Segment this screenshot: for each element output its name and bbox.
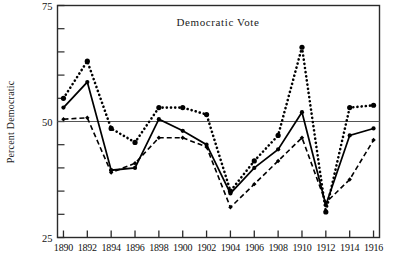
x-tick-label: 1898: [149, 242, 168, 253]
chart-container: 255075 189018921894189618981900190219041…: [0, 0, 393, 256]
data-point-marker: [228, 191, 232, 195]
x-tick-label: 1906: [245, 242, 264, 253]
data-point-marker: [299, 45, 304, 50]
data-point-marker: [157, 136, 161, 140]
data-point-marker: [347, 105, 352, 110]
data-point-marker: [132, 140, 137, 145]
x-tick-label: 1914: [340, 242, 359, 253]
data-point-marker: [180, 105, 185, 110]
y-tick-label: 75: [42, 1, 53, 12]
data-point-marker: [109, 126, 114, 131]
data-point-marker: [276, 133, 281, 138]
data-point-marker: [61, 117, 65, 121]
data-point-marker: [276, 147, 280, 151]
x-tick-label: 1902: [197, 242, 216, 253]
series-line: [63, 82, 373, 205]
data-point-marker: [252, 166, 256, 170]
data-point-marker: [204, 112, 209, 117]
x-tick-label: 1916: [364, 242, 383, 253]
chart-title: Democratic Vote: [177, 16, 260, 28]
data-point-marker: [157, 117, 161, 121]
data-point-marker: [348, 133, 352, 137]
x-tick-label: 1904: [221, 242, 240, 253]
data-point-marker: [371, 126, 375, 130]
y-axis-label: Percent Democratic: [5, 80, 16, 163]
x-tick-label: 1912: [316, 242, 335, 253]
x-tick-label: 1896: [125, 242, 144, 253]
x-tick-label: 1890: [54, 242, 73, 253]
series-solid-series: [61, 80, 375, 207]
democratic-vote-chart: 255075 189018921894189618981900190219041…: [0, 0, 393, 256]
y-tick-label: 25: [42, 233, 53, 244]
x-tick-label: 1910: [292, 242, 311, 253]
data-point-marker: [133, 166, 137, 170]
series-layer: [61, 45, 376, 215]
series-dotted-series: [61, 45, 376, 215]
x-tick-label: 1892: [78, 242, 97, 253]
data-point-marker: [181, 136, 185, 140]
x-axis-tick-labels: 1890189218941896189819001902190419061908…: [54, 242, 383, 253]
data-point-marker: [85, 80, 89, 84]
y-tick-label: 50: [42, 117, 53, 128]
data-point-marker: [300, 110, 304, 114]
data-point-marker: [181, 129, 185, 133]
x-tick-label: 1894: [102, 242, 121, 253]
data-point-marker: [61, 96, 66, 101]
x-tick-label: 1900: [173, 242, 192, 253]
data-point-marker: [252, 158, 257, 163]
data-point-marker: [156, 105, 161, 110]
y-axis-tick-labels: 255075: [42, 1, 53, 244]
data-point-marker: [371, 103, 376, 108]
data-point-marker: [323, 209, 328, 214]
data-point-marker: [85, 59, 90, 64]
x-axis-ticks: [63, 231, 373, 238]
data-point-marker: [61, 105, 65, 109]
x-tick-label: 1908: [269, 242, 288, 253]
